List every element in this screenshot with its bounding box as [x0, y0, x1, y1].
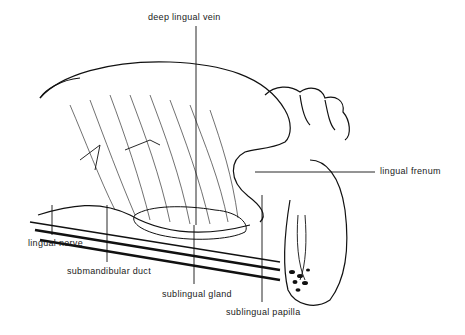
tongue-outline: [40, 62, 290, 222]
label-lingual-frenum: lingual frenum: [380, 166, 441, 176]
label-deep-lingual-vein: deep lingual vein: [148, 12, 221, 22]
label-submandibular-duct: submandibular duct: [67, 266, 151, 276]
label-sublingual-papilla: sublingual papilla: [226, 307, 300, 317]
label-sublingual-gland: sublingual gland: [162, 289, 232, 299]
label-lingual-nerve: lingual nerve: [28, 238, 83, 248]
